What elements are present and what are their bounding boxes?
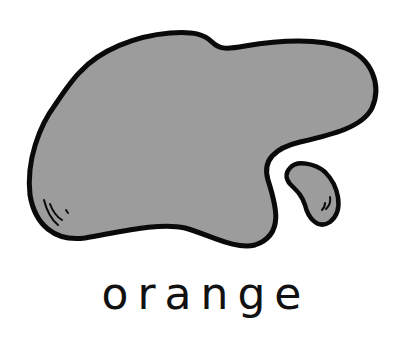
small-blob-shape (287, 163, 339, 224)
blob-illustration (0, 0, 400, 270)
caption-word: orange (0, 268, 400, 319)
